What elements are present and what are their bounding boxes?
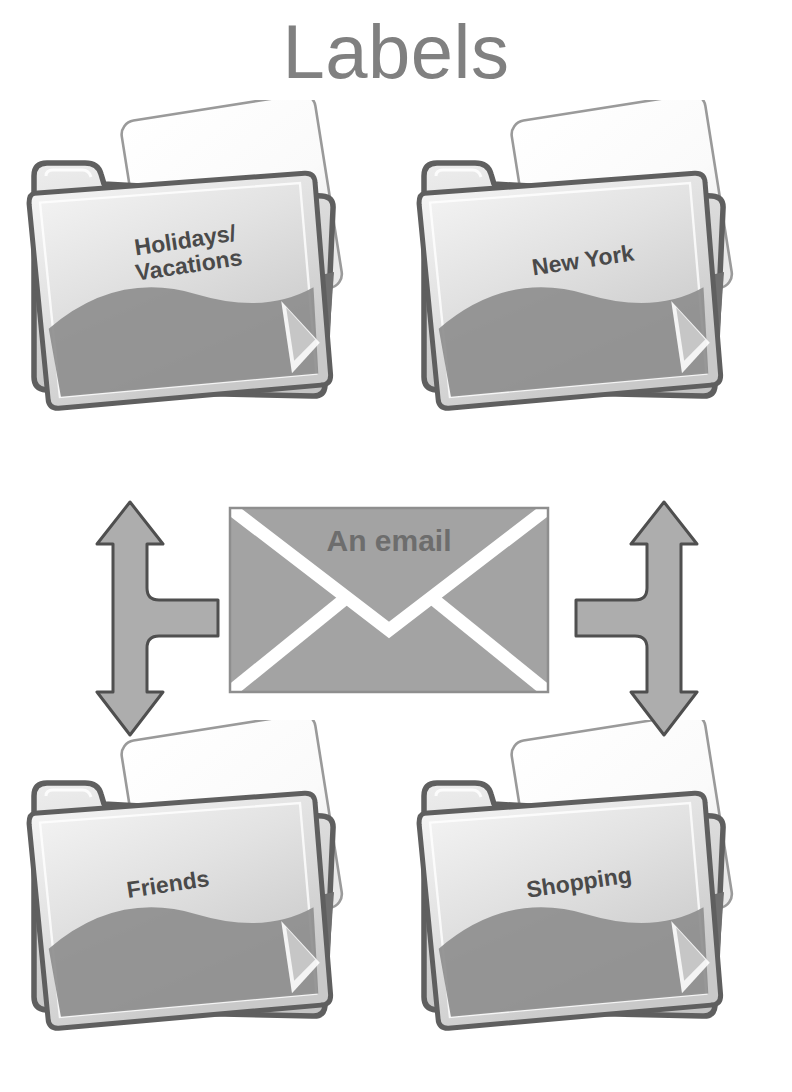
fork-arrow-left xyxy=(92,496,222,741)
folder-friends[interactable]: Friends xyxy=(22,720,362,1060)
folder-with-document-icon xyxy=(22,720,362,1060)
folder-with-document-icon xyxy=(412,100,752,440)
folder-shopping[interactable]: Shopping xyxy=(412,720,752,1060)
folder-with-document-icon xyxy=(412,720,752,1060)
folder-holidays-vacations[interactable]: Holidays/ Vacations xyxy=(22,100,362,440)
folder-new-york[interactable]: New York xyxy=(412,100,752,440)
email-envelope[interactable]: An email xyxy=(228,506,550,694)
fork-arrow-up-down-right-icon xyxy=(92,496,222,741)
fork-arrow-right xyxy=(572,496,702,741)
envelope-icon xyxy=(228,506,550,694)
page-title: Labels xyxy=(0,14,792,90)
folder-with-document-icon xyxy=(22,100,362,440)
fork-arrow-up-down-left-icon xyxy=(572,496,702,741)
